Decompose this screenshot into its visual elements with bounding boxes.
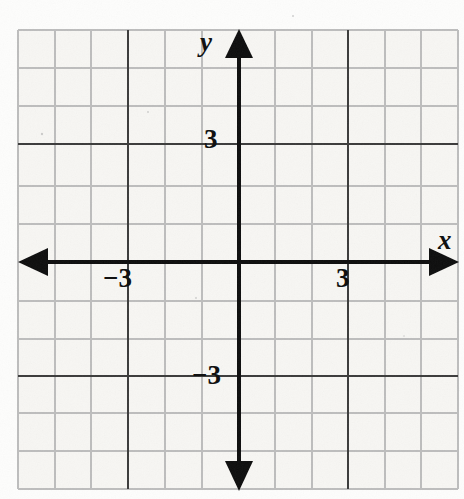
y-axis-label: y xyxy=(200,29,212,56)
tick-label-x-negative-3: −3 xyxy=(103,265,132,292)
tick-label-y-positive-3: 3 xyxy=(204,126,218,153)
paper-grain-overlay xyxy=(0,0,464,499)
graph-paper-svg xyxy=(0,0,464,499)
tick-label-x-positive-3: 3 xyxy=(336,265,350,292)
x-axis-label: x xyxy=(438,227,452,254)
tick-label-y-negative-3: −3 xyxy=(192,362,221,389)
coordinate-plane-figure: y x 3 −3 −3 3 xyxy=(0,0,464,499)
